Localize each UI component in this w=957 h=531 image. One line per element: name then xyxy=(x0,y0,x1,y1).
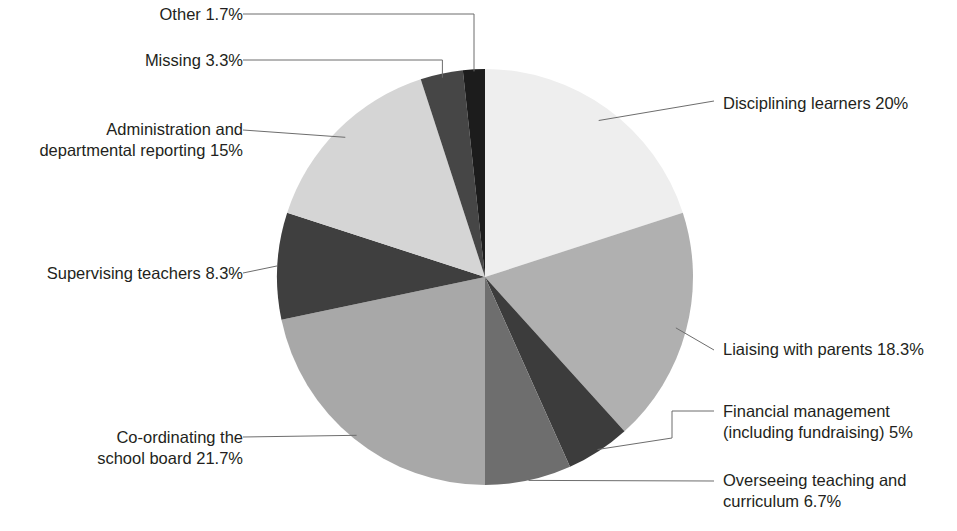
leader-line-supervising-teachers xyxy=(243,266,277,273)
leader-line-co-ordinating-school-board xyxy=(243,435,357,437)
label-co-ordinating-school-board: Co-ordinating the school board 21.7% xyxy=(97,427,243,469)
leader-line-other xyxy=(243,14,474,71)
leader-line-administration-departmental-reporting xyxy=(243,130,345,137)
label-supervising-teachers: Supervising teachers 8.3% xyxy=(47,263,243,284)
label-financial-management: Financial management (including fundrais… xyxy=(723,401,913,443)
label-disciplining-learners: Disciplining learners 20% xyxy=(723,93,908,114)
label-missing: Missing 3.3% xyxy=(145,50,243,71)
label-liaising-with-parents: Liaising with parents 18.3% xyxy=(723,339,924,360)
pie-chart-figure: Disciplining learners 20% Liaising with … xyxy=(0,0,957,531)
leader-line-overseeing-teaching xyxy=(529,480,715,481)
pie-slices-group xyxy=(277,69,693,485)
label-other: Other 1.7% xyxy=(160,4,243,25)
leader-line-disciplining-learners xyxy=(599,101,714,121)
label-overseeing-teaching: Overseeing teaching and curriculum 6.7% xyxy=(723,470,906,512)
label-administration-departmental-reporting: Administration and departmental reportin… xyxy=(39,119,243,161)
leader-line-missing xyxy=(243,60,442,78)
